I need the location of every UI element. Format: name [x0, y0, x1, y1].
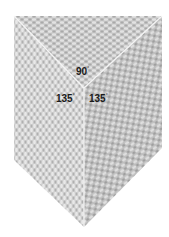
degree-symbol: ° — [106, 92, 108, 98]
knitted-panels-diagram: 90° 135° 135° — [0, 0, 169, 237]
angle-value-top: 90 — [76, 66, 87, 77]
angle-label-right: 135° — [89, 94, 108, 104]
angle-label-top: 90° — [76, 67, 89, 77]
angle-value-right: 135 — [89, 93, 106, 104]
panels-graphic — [0, 0, 169, 237]
degree-symbol: ° — [73, 92, 75, 98]
angle-label-left: 135° — [56, 94, 75, 104]
degree-symbol: ° — [87, 65, 89, 71]
angle-value-left: 135 — [56, 93, 73, 104]
